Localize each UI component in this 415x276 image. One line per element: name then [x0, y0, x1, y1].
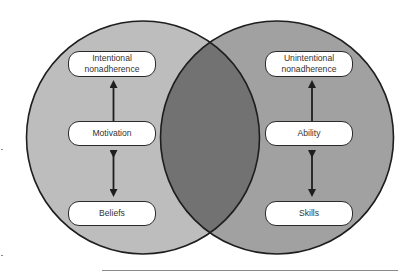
- node-beliefs: Beliefs: [68, 201, 156, 226]
- node-unintentional-nonadherence: Unintentional nonadherence: [265, 51, 353, 77]
- node-label-line2: nonadherence: [85, 64, 140, 75]
- margin-mark: [1, 255, 3, 256]
- node-label: Motivation: [92, 128, 131, 139]
- node-label-line1: Unintentional: [284, 53, 334, 64]
- node-motivation: Motivation: [68, 121, 156, 146]
- node-label: Ability: [298, 128, 321, 139]
- node-label-line2: nonadherence: [282, 64, 337, 75]
- node-label: Beliefs: [99, 208, 125, 219]
- venn-diagram: [0, 0, 415, 276]
- node-skills: Skills: [265, 201, 353, 226]
- node-intentional-nonadherence: Intentional nonadherence: [68, 51, 156, 77]
- margin-mark: [1, 149, 3, 150]
- node-label: Skills: [299, 208, 319, 219]
- node-label-line1: Intentional: [92, 53, 132, 64]
- node-ability: Ability: [265, 121, 353, 146]
- bottom-divider: [102, 270, 398, 271]
